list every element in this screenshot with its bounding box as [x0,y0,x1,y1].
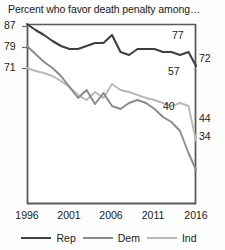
legend-item-dem[interactable]: Dem [83,233,147,244]
legend-label-rep: Rep [55,233,82,244]
x-tick-2006: 2006 [91,209,131,221]
legend-item-ind[interactable]: Ind [147,233,204,244]
axis-tick-marks [22,27,27,69]
chart-figure: Percent who favor death penalty among… 8… [0,0,225,250]
legend-label-dem: Dem [117,233,147,244]
end-value-dem: 34 [199,131,211,142]
legend-label-ind: Ind [181,233,204,244]
inner-value-ind: 57 [168,66,180,77]
x-tick-2016: 2016 [176,209,216,221]
chart-legend: Rep Dem Ind [0,230,225,246]
legend-swatch-dem-icon [83,237,113,239]
end-value-rep: 72 [199,53,211,64]
x-tick-2001: 2001 [49,209,89,221]
inner-value-rep: 77 [172,30,184,41]
end-value-ind: 44 [199,113,211,124]
legend-swatch-ind-icon [147,237,177,239]
legend-swatch-rep-icon [21,237,51,239]
start-value-rep: 87 [4,20,16,31]
inner-value-dem: 40 [163,101,175,112]
start-value-dem: 79 [4,41,16,52]
x-tick-2011: 2011 [133,209,173,221]
start-value-ind: 71 [4,62,16,73]
legend-item-rep[interactable]: Rep [21,233,82,244]
x-tick-1996: 1996 [7,209,47,221]
